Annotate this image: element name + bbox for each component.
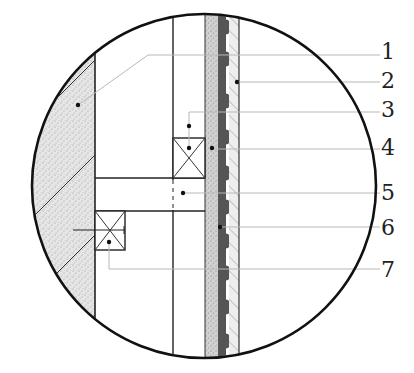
callout-label-4: 4 xyxy=(381,137,395,159)
callout-label-3: 3 xyxy=(381,99,395,121)
callout-label-1: 1 xyxy=(381,41,395,63)
callout-label-6: 6 xyxy=(381,217,395,239)
callout-label-5: 5 xyxy=(381,182,395,204)
horizontal-batten xyxy=(95,178,205,211)
callout-label-7: 7 xyxy=(381,259,395,281)
detail-drawing: 1 2 3 4 5 6 7 xyxy=(0,0,414,373)
callout-label-2: 2 xyxy=(381,70,395,92)
layer-board xyxy=(205,0,218,373)
leader-7 xyxy=(109,240,380,269)
layer-finish xyxy=(229,0,239,373)
